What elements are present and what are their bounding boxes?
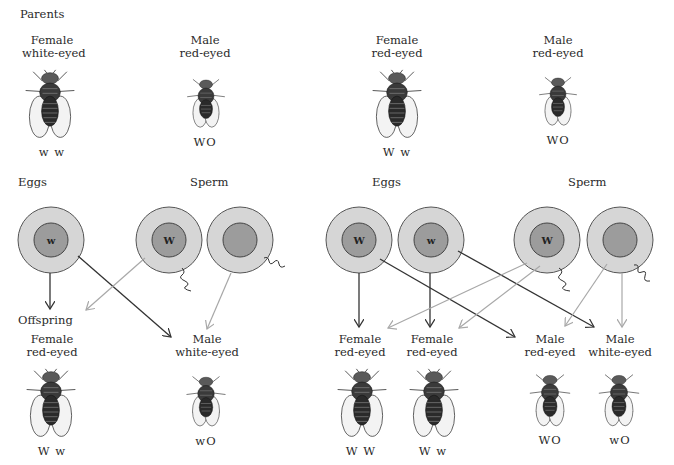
genotype-label: W w <box>22 444 82 458</box>
sperm-heading: Sperm <box>568 176 606 189</box>
egg-cell-w: w <box>18 207 84 273</box>
eggs-heading: Eggs <box>18 176 47 189</box>
genotype-label: W w <box>367 145 427 159</box>
phenotype-label: white-eyed <box>584 346 656 359</box>
parent-label: Female red-eyed <box>367 34 427 60</box>
parent-label: Male red-eyed <box>528 34 588 60</box>
eggs-heading: Eggs <box>372 176 401 189</box>
svg-text:W: W <box>540 235 553 246</box>
fly-female-red-eyed-parent-icon <box>373 70 422 138</box>
genotype-label: WO <box>175 135 235 149</box>
fly-male-white-eyed-offspring-icon <box>187 377 226 427</box>
genotype-label: w w <box>22 145 82 159</box>
genotype-label: wO <box>176 434 236 448</box>
phenotype-label: white-eyed <box>172 346 242 359</box>
phenotype-label: red-eyed <box>22 346 82 359</box>
svg-text:W: W <box>162 235 175 246</box>
egg-cell-W: W <box>326 207 392 273</box>
genotype-label: WO <box>528 133 588 147</box>
fly-male-white-eyed-wO-icon <box>599 375 639 426</box>
sperm-cell-Y <box>587 207 653 281</box>
phenotype-label: red-eyed <box>367 47 427 60</box>
parent-label: Female white-eyed <box>22 34 82 60</box>
parents-heading: Parents <box>20 8 64 21</box>
sperm-cell-W: W <box>136 207 202 291</box>
offspring-label: Male red-eyed <box>520 333 580 359</box>
parent-label: Male red-eyed <box>175 34 235 60</box>
fly-female-red-eyed-offspring-icon <box>27 369 76 437</box>
arrow-sperm-W-to-female <box>86 258 145 310</box>
fly-female-white-eyed-parent-icon <box>26 70 75 138</box>
arrow-sperm-Y-to-male-red <box>565 264 607 326</box>
phenotype-label: red-eyed <box>520 346 580 359</box>
offspring-label: Female red-eyed <box>330 333 390 359</box>
phenotype-label: red-eyed <box>528 47 588 60</box>
genotype-label: WO <box>520 433 580 447</box>
genotype-label: wO <box>590 433 650 447</box>
fly-male-red-eyed-parent-icon <box>187 79 225 127</box>
phenotype-label: red-eyed <box>330 346 390 359</box>
svg-text:w: w <box>426 235 436 246</box>
svg-text:W: W <box>352 235 365 246</box>
egg-cell-w: w <box>398 207 464 273</box>
svg-text:w: w <box>46 235 56 246</box>
fly-male-red-eyed-WO-icon <box>530 375 570 426</box>
fly-female-red-eyed-WW-icon <box>338 369 387 437</box>
offspring-label: Male white-eyed <box>172 333 242 359</box>
phenotype-label: white-eyed <box>22 47 82 60</box>
arrow-sperm-W-to-female-1 <box>388 263 527 328</box>
phenotype-label: red-eyed <box>175 47 235 60</box>
offspring-label: Male white-eyed <box>584 333 656 359</box>
sperm-cell-Y <box>207 207 285 273</box>
genotype-label: W W <box>331 444 391 458</box>
offspring-label: Female red-eyed <box>402 333 462 359</box>
sperm-tail-icon <box>559 268 570 291</box>
arrow-egg-W-to-male-red <box>380 259 515 337</box>
sperm-tail-icon <box>181 268 191 291</box>
phenotype-label: red-eyed <box>402 346 462 359</box>
offspring-heading: Offspring <box>18 314 73 327</box>
diagram-canvas: w W W w W <box>0 0 674 465</box>
fly-male-red-eyed-parent-icon <box>539 77 577 125</box>
fly-female-red-eyed-Ww-icon <box>410 369 459 437</box>
genotype-label: W w <box>403 444 463 458</box>
sperm-heading: Sperm <box>190 176 228 189</box>
arrow-sperm-Y-to-male <box>207 273 231 329</box>
offspring-label: Female red-eyed <box>22 333 82 359</box>
